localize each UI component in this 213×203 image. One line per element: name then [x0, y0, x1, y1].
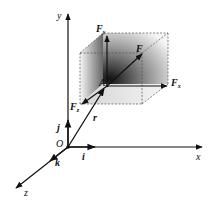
k-label: k	[55, 157, 60, 168]
shaded-box	[80, 33, 168, 104]
x-axis-label: x	[195, 151, 201, 162]
i-label: i	[82, 151, 85, 162]
z-axis-label: z	[23, 187, 28, 198]
r-label: r	[93, 112, 97, 123]
fz-label: Fz	[69, 101, 80, 113]
fy-label: Fy	[95, 23, 106, 35]
f-label: F	[135, 43, 143, 54]
origin-label: O	[56, 138, 63, 149]
point-a	[106, 85, 109, 88]
y-axis-label: y	[56, 10, 62, 21]
j-label: j	[55, 122, 60, 133]
fx-label: Fx	[170, 77, 181, 89]
a-label: A	[98, 77, 106, 88]
diagram-canvas: y x z O j i k r A F Fy Fx Fz	[0, 0, 213, 203]
vector-diagram: y x z O j i k r A F Fy Fx Fz	[0, 0, 213, 203]
